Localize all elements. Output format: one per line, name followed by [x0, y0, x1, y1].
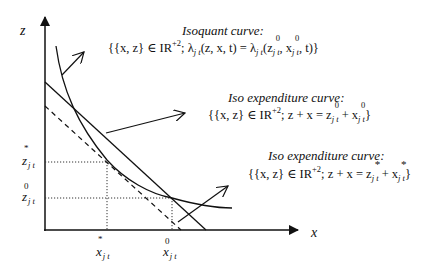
- iso-expenditure-star-formula: {{x, z} ∈ IR+2; z + x = z*j t + x*j t}: [248, 168, 411, 181]
- iso-expenditure-line-star: [45, 106, 181, 230]
- tick-x-star: *xj t: [96, 245, 110, 258]
- isoquant-arrow: [62, 52, 84, 75]
- isoquant-title: Isoquant curve:: [182, 24, 264, 37]
- iso-expenditure-0-title: Iso expenditure curve:: [228, 91, 344, 104]
- isoquant-formula: {{x, z} ∈ IR+2; λj t(z, x, t) = λj t(z0j…: [108, 42, 319, 55]
- tick-z-zero: 0zj t: [22, 190, 35, 203]
- iso-expenditure-star-title: Iso expenditure curve:: [268, 149, 384, 162]
- iso-expenditure-star-arrow: [178, 186, 228, 222]
- tick-x-zero: 0xj t: [163, 245, 177, 258]
- iso-expenditure-line-0: [45, 82, 206, 230]
- y-axis-label: z: [20, 24, 25, 38]
- isoquant-curve: [56, 46, 232, 208]
- iso-expenditure-0-arrow: [106, 113, 185, 133]
- x-axis-label: x: [311, 226, 317, 240]
- tick-z-star: *zj t: [22, 154, 35, 167]
- iso-expenditure-0-formula: {{x, z} ∈ IR+2; z + x = z0j t + x0j t}: [208, 109, 371, 122]
